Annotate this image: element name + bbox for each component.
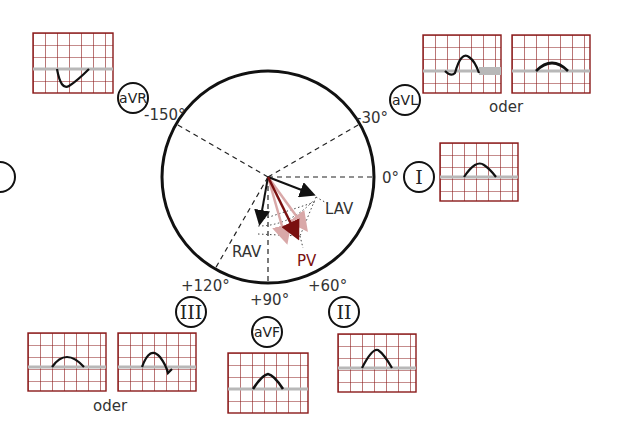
vector-label-lav: LAV: [325, 200, 354, 218]
angle-label-0: 0°: [382, 169, 399, 187]
axis-circle: [162, 71, 374, 283]
alternative-label-top: oder: [489, 98, 524, 116]
ecg-strip-avl-a: [423, 35, 501, 93]
vector-label-pv: PV: [297, 252, 317, 270]
lead-label-i: I: [415, 166, 423, 188]
hexaxial-diagram: -150° -30° 0° +60° +90° +120° LAV RAV PV…: [0, 0, 622, 448]
lead-iii: III: [176, 297, 206, 327]
lead-label-ii: II: [336, 301, 351, 323]
angle-label-p90: +90°: [250, 291, 289, 309]
ecg-strip-i: [440, 143, 518, 201]
lead-avl: aVL: [390, 85, 420, 115]
angle-label-m150: -150°: [144, 106, 186, 124]
angle-label-p60: +60°: [308, 277, 347, 295]
lead-label-avr: aVR: [119, 90, 147, 106]
ecg-strip-avl-b: [512, 35, 590, 93]
lead-avf: aVF: [252, 317, 282, 347]
ecg-strip-avr: [33, 33, 113, 93]
vector-label-rav: RAV: [232, 243, 262, 261]
angle-label-m30: -30°: [356, 109, 388, 127]
lead-avr: aVR: [118, 83, 148, 113]
ecg-strip-iii-b: [118, 333, 196, 391]
ecg-strip-avf: [228, 353, 308, 413]
lead-ii: II: [329, 297, 359, 327]
ecg-strip-iii-a: [28, 333, 106, 391]
lead-label-iii: III: [180, 301, 203, 323]
lead-label-avf: aVF: [254, 324, 280, 340]
ecg-strip-ii: [338, 334, 416, 392]
alternative-label-bottom: oder: [93, 397, 128, 415]
angle-label-p120: +120°: [181, 277, 230, 295]
lead-label-avl: aVL: [392, 92, 418, 108]
